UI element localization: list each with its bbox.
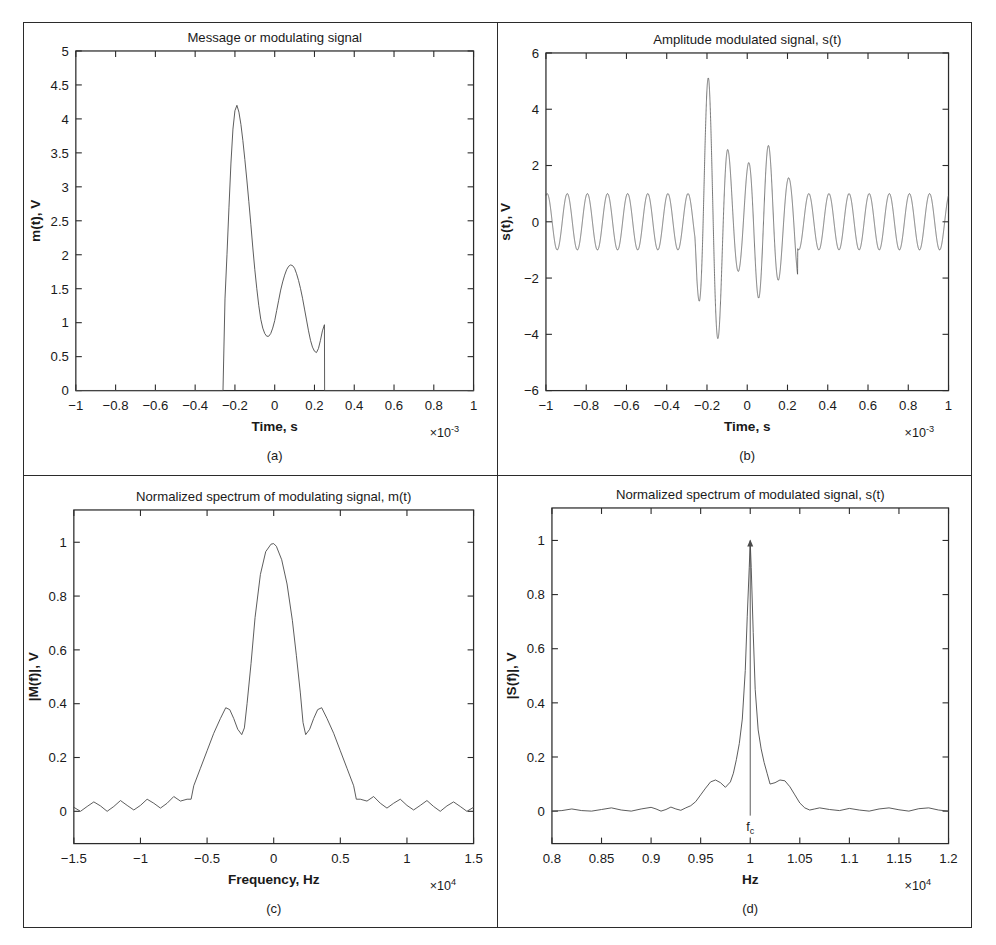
y-tick-label: 5 — [62, 44, 69, 59]
y-axis-label: |M(f)|, V — [26, 652, 41, 701]
y-tick-label: −4 — [523, 327, 538, 342]
x-tick-label: −1 — [538, 398, 553, 413]
y-tick-label: 0 — [537, 803, 544, 818]
y-tick-label: 0.5 — [51, 349, 69, 364]
x-tick-label: 0.8 — [542, 850, 560, 865]
x-tick-label: −0.6 — [613, 398, 639, 413]
y-tick-label: −6 — [523, 383, 538, 398]
y-tick-label: 1 — [62, 315, 69, 330]
y-tick-label: 1.5 — [51, 281, 69, 296]
x-tick-label: 0 — [270, 850, 277, 865]
x-tick-label: 0.5 — [331, 850, 349, 865]
x-tick-label: 0.8 — [899, 398, 917, 413]
x-tick-label: 0.9 — [641, 850, 659, 865]
y-axis-label: s(t), V — [498, 203, 513, 241]
y-tick-label: 4.5 — [51, 78, 69, 93]
x-tick-label: 0.4 — [818, 398, 836, 413]
x-tick-label: −0.8 — [103, 398, 129, 413]
x-tick-label: −0.6 — [142, 398, 168, 413]
panel-d: Normalized spectrum of modulated signal,… — [498, 476, 972, 928]
panel-grid: Message or modulating signal−1−0.8−0.6−0… — [24, 23, 971, 927]
y-axis-label: |S(f)|, V — [503, 652, 518, 699]
chart-title: Message or modulating signal — [187, 30, 362, 45]
data-series-line — [76, 105, 474, 390]
y-tick-label: 1 — [60, 535, 67, 550]
x-tick-label: −1 — [68, 398, 83, 413]
x-tick-label: 0.2 — [305, 398, 323, 413]
x-tick-label: −1.5 — [61, 850, 87, 865]
x-tick-label: 1.5 — [464, 850, 482, 865]
x-axis-exponent: ×10-3 — [430, 424, 459, 440]
y-tick-label: 2 — [62, 248, 69, 263]
x-tick-label: 0.4 — [345, 398, 363, 413]
data-series-line — [545, 78, 948, 339]
y-tick-label: 0.8 — [49, 588, 67, 603]
y-tick-label: 0.6 — [526, 641, 544, 656]
x-tick-label: 1.05 — [786, 850, 812, 865]
y-tick-label: 1 — [537, 533, 544, 548]
y-tick-label: 0 — [531, 215, 538, 230]
panel-a: Message or modulating signal−1−0.8−0.6−0… — [24, 23, 498, 476]
fc-label: fc — [746, 819, 755, 835]
y-tick-label: 0.4 — [526, 695, 544, 710]
x-tick-label: −1 — [133, 850, 148, 865]
x-tick-label: 0.85 — [588, 850, 614, 865]
y-tick-label: 2 — [531, 158, 538, 173]
x-tick-label: 1.15 — [886, 850, 912, 865]
x-tick-label: 1.2 — [939, 850, 957, 865]
x-axis-label: Time, s — [723, 419, 770, 434]
x-tick-label: −0.8 — [573, 398, 599, 413]
y-tick-label: 6 — [531, 46, 538, 61]
fc-arrow-head — [747, 539, 753, 546]
x-axis-label: Frequency, Hz — [228, 871, 320, 886]
x-tick-label: 0.2 — [778, 398, 796, 413]
y-tick-label: 0 — [60, 804, 67, 819]
y-tick-label: 0.4 — [49, 696, 67, 711]
x-tick-label: 0.6 — [858, 398, 876, 413]
x-tick-label: −0.4 — [653, 398, 679, 413]
y-tick-label: −2 — [523, 271, 538, 286]
plot-frame — [76, 51, 474, 391]
x-tick-label: −0.4 — [182, 398, 208, 413]
chart-title: Amplitude modulated signal, s(t) — [653, 32, 841, 47]
y-tick-label: 0.2 — [526, 749, 544, 764]
y-tick-label: 4 — [62, 112, 69, 127]
plot-frame — [545, 53, 948, 391]
x-tick-label: 1 — [403, 850, 410, 865]
x-tick-label: 1 — [470, 398, 477, 413]
y-tick-label: 4 — [531, 102, 538, 117]
x-axis-label: Hz — [741, 871, 758, 886]
panel-caption: (c) — [266, 900, 281, 915]
x-tick-label: −0.2 — [222, 398, 248, 413]
x-tick-label: 0 — [271, 398, 278, 413]
x-tick-label: −0.2 — [693, 398, 719, 413]
panel-b: Amplitude modulated signal, s(t)−1−0.8−0… — [498, 23, 972, 476]
y-axis-label: m(t), V — [28, 200, 43, 242]
panel-caption: (d) — [742, 900, 758, 915]
y-tick-label: 0.6 — [49, 642, 67, 657]
y-tick-label: 0.2 — [49, 750, 67, 765]
x-tick-label: 1.1 — [840, 850, 858, 865]
panel-caption: (a) — [267, 448, 283, 463]
y-tick-label: 2.5 — [51, 214, 69, 229]
x-tick-label: 0 — [743, 398, 750, 413]
x-tick-label: 0.95 — [687, 850, 713, 865]
x-tick-label: −0.5 — [194, 850, 220, 865]
x-tick-label: 0.6 — [385, 398, 403, 413]
x-tick-label: 1 — [746, 850, 753, 865]
y-tick-label: 3 — [62, 180, 69, 195]
x-tick-label: 1 — [944, 398, 951, 413]
x-axis-exponent: ×104 — [904, 876, 930, 892]
figure-container: Message or modulating signal−1−0.8−0.6−0… — [23, 22, 972, 928]
x-axis-exponent: ×10-3 — [904, 424, 934, 440]
panel-caption: (b) — [739, 448, 755, 463]
x-tick-label: 0.8 — [425, 398, 443, 413]
plot-frame — [74, 509, 474, 843]
y-tick-label: 0.8 — [526, 587, 544, 602]
x-axis-label: Time, s — [251, 419, 297, 434]
y-tick-label: 3.5 — [51, 146, 69, 161]
chart-title: Normalized spectrum of modulating signal… — [136, 488, 411, 503]
data-series-line — [74, 543, 474, 811]
y-tick-label: 0 — [62, 383, 69, 398]
x-axis-exponent: ×104 — [430, 876, 456, 892]
